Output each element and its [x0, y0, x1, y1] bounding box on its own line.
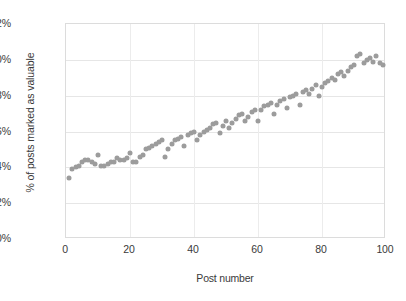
data-point [166, 147, 171, 152]
y-axis-tick-label: 8% [0, 89, 11, 101]
data-point [332, 77, 337, 82]
x-axis-tick-label: 100 [355, 243, 406, 255]
data-point [268, 100, 273, 105]
data-point [371, 59, 376, 64]
gridline-horizontal [66, 60, 384, 61]
data-point [313, 82, 318, 87]
gridline-vertical [258, 24, 259, 237]
plot-area [65, 23, 385, 238]
data-point [96, 152, 101, 157]
gridline-vertical [322, 24, 323, 237]
x-axis-tick-label: 80 [291, 243, 351, 255]
gridline-vertical [130, 24, 131, 237]
gridline-horizontal [66, 167, 384, 168]
data-point [240, 111, 245, 116]
data-point [281, 97, 286, 102]
scatter-chart-figure: % of posts marked as valuable 0%2%4%6%8%… [0, 0, 406, 301]
data-point [294, 91, 299, 96]
data-point [227, 125, 232, 130]
x-axis-tick-label: 40 [163, 243, 223, 255]
x-axis-tick-label: 0 [35, 243, 95, 255]
x-axis-title: Post number [65, 272, 385, 284]
data-point [134, 159, 139, 164]
x-axis-tick-label: 60 [227, 243, 287, 255]
data-point [252, 108, 257, 113]
cropped-caption-sliver [8, 294, 398, 301]
data-point [92, 161, 97, 166]
y-axis-title: % of posts marked as valuable [20, 0, 40, 245]
data-point [307, 91, 312, 96]
data-point [224, 118, 229, 123]
data-point [217, 131, 222, 136]
data-point [342, 73, 347, 78]
data-point [352, 63, 357, 68]
data-point [67, 176, 72, 181]
data-point [214, 120, 219, 125]
gridline-horizontal [66, 132, 384, 133]
data-point [246, 115, 251, 120]
gridline-horizontal [66, 203, 384, 204]
data-point [163, 154, 168, 159]
y-axis-tick-label: 4% [0, 160, 11, 172]
data-point [179, 134, 184, 139]
data-point [195, 138, 200, 143]
data-point [380, 63, 385, 68]
data-point [220, 124, 225, 129]
y-axis-tick-label: 10% [0, 53, 11, 65]
data-point [182, 143, 187, 148]
data-point [316, 93, 321, 98]
y-axis-tick-label: 0% [0, 232, 11, 244]
y-axis-tick-label: 6% [0, 125, 11, 137]
data-point [160, 138, 165, 143]
y-axis-tick-label: 2% [0, 196, 11, 208]
y-axis-tick-label: 12% [0, 17, 11, 29]
data-point [124, 156, 129, 161]
data-point [284, 106, 289, 111]
data-point [272, 111, 277, 116]
data-point [128, 151, 133, 156]
data-point [358, 52, 363, 57]
data-point [297, 102, 302, 107]
gridline-horizontal [66, 96, 384, 97]
data-point [192, 129, 197, 134]
data-point [256, 118, 261, 123]
x-axis-tick-label: 20 [99, 243, 159, 255]
data-point [140, 152, 145, 157]
data-point [374, 54, 379, 59]
